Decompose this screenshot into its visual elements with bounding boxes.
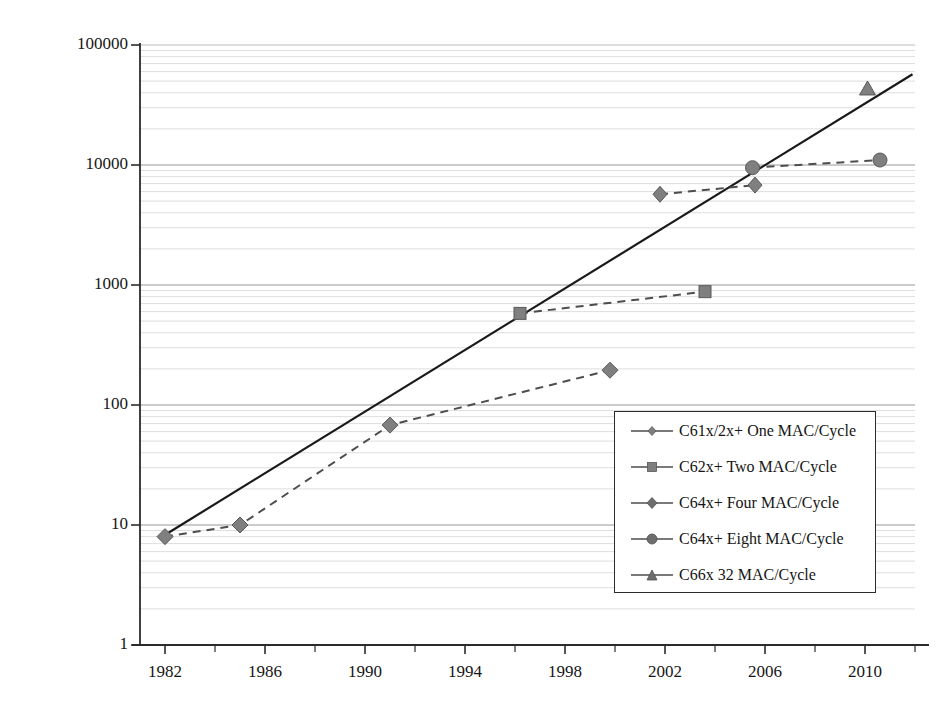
- y-tick-label: 1000: [0, 274, 128, 294]
- data-point: [699, 286, 711, 298]
- legend-label-2: C64x+ Four MAC/Cycle: [679, 494, 839, 512]
- chart-container: Million Multiply Accumulate/s (MMAC/s) C…: [0, 0, 939, 719]
- chart-legend: C61x/2x+ One MAC/Cycle C62x+ Two MAC/Cyc…: [614, 411, 876, 593]
- x-tick-label: 2010: [820, 662, 910, 682]
- data-point: [748, 177, 762, 193]
- series-4: [860, 81, 876, 95]
- legend-item-2[interactable]: C64x+ Four MAC/Cycle: [615, 488, 875, 518]
- legend-label-0: C61x/2x+ One MAC/Cycle: [679, 422, 856, 440]
- legend-item-3[interactable]: C64x+ Eight MAC/Cycle: [615, 524, 875, 554]
- data-point: [602, 362, 618, 378]
- y-tick-label: 10000: [0, 154, 128, 174]
- x-tick-label: 1986: [220, 662, 310, 682]
- y-tick-label: 100000: [0, 34, 128, 54]
- legend-label-4: C66x 32 MAC/Cycle: [679, 566, 816, 584]
- data-point: [746, 161, 760, 175]
- triangle-icon: [629, 564, 675, 586]
- data-point: [653, 186, 667, 202]
- legend-label-3: C64x+ Eight MAC/Cycle: [679, 530, 844, 548]
- x-tick-label: 2002: [620, 662, 710, 682]
- circle-icon: [629, 528, 675, 550]
- x-tick-label: 1998: [520, 662, 610, 682]
- y-tick-label: 100: [0, 394, 128, 414]
- y-tick-label: 10: [0, 514, 128, 534]
- series-0: [157, 362, 618, 544]
- data-point: [514, 307, 526, 319]
- y-tick-label: 1: [0, 634, 128, 654]
- series-2: [653, 177, 762, 202]
- legend-item-4[interactable]: C66x 32 MAC/Cycle: [615, 560, 875, 590]
- diamond-small-icon: [629, 420, 675, 442]
- plot-area: [0, 0, 939, 719]
- data-point: [873, 153, 887, 167]
- x-tick-label: 1982: [120, 662, 210, 682]
- data-point: [860, 81, 876, 95]
- square-icon: [629, 456, 675, 478]
- legend-item-0[interactable]: C61x/2x+ One MAC/Cycle: [615, 416, 875, 446]
- legend-label-1: C62x+ Two MAC/Cycle: [679, 458, 837, 476]
- x-tick-label: 1994: [420, 662, 510, 682]
- x-tick-label: 2006: [720, 662, 810, 682]
- legend-item-1[interactable]: C62x+ Two MAC/Cycle: [615, 452, 875, 482]
- diamond-icon: [629, 492, 675, 514]
- data-point: [382, 417, 398, 433]
- x-tick-label: 1990: [320, 662, 410, 682]
